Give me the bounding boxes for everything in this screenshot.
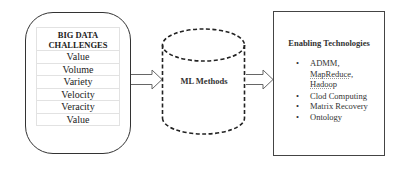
- arrow-icon: [246, 70, 273, 89]
- technologies-list: ADMM, MapReduce, Hadoop Clod Computing M…: [296, 58, 368, 122]
- technology-item: Clod Computing: [296, 91, 368, 102]
- technology-item: Ontology: [296, 112, 368, 123]
- technology-item: ADMM, MapReduce, Hadoop: [296, 58, 368, 90]
- arrow-icon: [131, 70, 162, 89]
- technology-item: Matrix Recovery: [296, 101, 368, 112]
- enabling-technologies-title: Enabling Technologies: [273, 38, 385, 48]
- ml-methods-label: ML Methods: [162, 76, 246, 86]
